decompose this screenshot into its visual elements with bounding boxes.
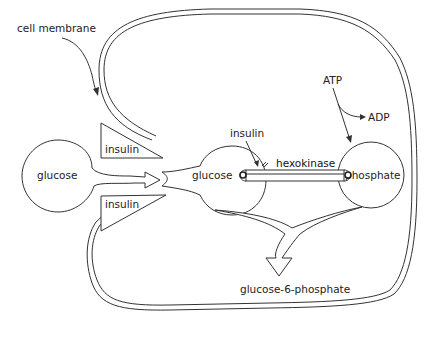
merge-arrow (215, 207, 362, 276)
glucose-outside-label: glucose (37, 169, 77, 181)
glucose-inside-label: glucose (192, 169, 232, 181)
insulin-top-label: insulin (105, 143, 139, 155)
atp-to-adp-arrowhead-icon (360, 114, 366, 120)
membrane-pointer-line (62, 38, 97, 93)
insulin-bottom-label: insulin (105, 198, 139, 210)
phosphate-label: phosphate (345, 169, 401, 181)
atp-to-phosphate-arrowhead-icon (346, 135, 352, 143)
cell-membrane-label: cell membrane (17, 22, 96, 34)
diagram-canvas: cell membrane insulin insulin glucose gl… (0, 0, 431, 354)
insulin-enzyme-label: insulin (230, 127, 264, 139)
product-label: glucose-6-phosphate (240, 283, 350, 295)
adp-label: ADP (368, 111, 390, 123)
membrane-pointer-arrowhead-icon (93, 87, 99, 96)
hexokinase-bar (240, 170, 351, 181)
hexokinase-label: hexokinase (276, 157, 335, 169)
atp-label: ATP (323, 74, 342, 86)
